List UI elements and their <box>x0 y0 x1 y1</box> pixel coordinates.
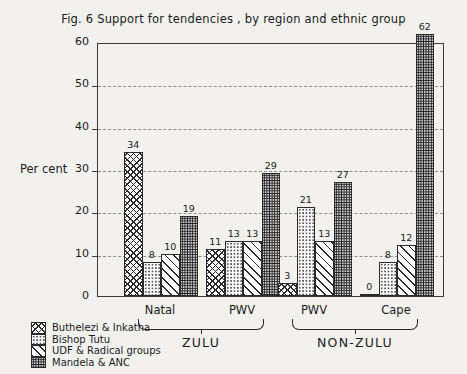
bracket-stem <box>355 329 356 334</box>
bar <box>225 241 244 296</box>
bar <box>297 207 316 296</box>
bar-value-label: 29 <box>265 160 277 171</box>
bar-value-label: 0 <box>366 281 372 292</box>
bar <box>206 249 225 296</box>
bar-value-label: 62 <box>419 21 431 32</box>
y-tick-label: 20 <box>49 204 89 217</box>
y-tick-label: 60 <box>49 35 89 48</box>
bracket-stem <box>201 329 202 334</box>
bar-value-label: 8 <box>385 249 391 260</box>
x-group-label: PWV <box>229 303 255 317</box>
bar-value-label: 12 <box>400 232 412 243</box>
legend-item: Buthelezi & Inkatha <box>31 322 161 334</box>
legend-label: Bishop Tutu <box>52 334 110 345</box>
bar-value-label: 11 <box>209 236 221 247</box>
bar-value-label: 34 <box>127 139 139 150</box>
plot-area: 3481019111313293211327081262 <box>97 43 444 297</box>
bar <box>278 283 297 296</box>
bar-value-label: 13 <box>246 228 258 239</box>
legend-label: Mandela & ANC <box>52 357 130 368</box>
bar <box>315 241 334 296</box>
legend-swatch <box>31 345 46 357</box>
x-group-label: PWV <box>301 303 327 317</box>
bar-value-label: 13 <box>318 228 330 239</box>
bar <box>379 262 398 296</box>
bar <box>334 182 353 296</box>
x-group-label: Natal <box>145 303 175 317</box>
bar-value-label: 10 <box>164 241 176 252</box>
legend-item: Mandela & ANC <box>31 357 161 369</box>
bar <box>416 34 435 296</box>
y-tick-label: 50 <box>49 77 89 90</box>
y-tick-label: 40 <box>49 120 89 133</box>
bars-layer: 3481019111313293211327081262 <box>98 44 443 296</box>
chart-figure: Fig. 6 Support for tendencies , by regio… <box>0 0 467 374</box>
legend-swatch <box>31 357 46 369</box>
bar <box>161 254 180 296</box>
bar <box>124 152 143 296</box>
y-tick-label: 0 <box>49 289 89 302</box>
bar-value-label: 8 <box>149 249 155 260</box>
chart-title: Fig. 6 Support for tendencies , by regio… <box>0 12 467 26</box>
bar-value-label: 3 <box>284 270 290 281</box>
x-group-label: Cape <box>381 303 410 317</box>
bar-value-label: 27 <box>337 169 349 180</box>
bar-value-label: 21 <box>300 194 312 205</box>
bar <box>143 262 162 296</box>
legend: Buthelezi & InkathaBishop TutuUDF & Radi… <box>31 322 161 368</box>
y-tick-label: 30 <box>49 162 89 175</box>
bar-value-label: 13 <box>228 228 240 239</box>
y-tick-label: 10 <box>49 247 89 260</box>
legend-item: Bishop Tutu <box>31 334 161 346</box>
bar <box>262 173 281 296</box>
group-bracket-label: ZULU <box>182 335 220 350</box>
bar-value-label: 19 <box>183 203 195 214</box>
bar <box>243 241 262 296</box>
legend-swatch <box>31 334 46 346</box>
bar <box>180 216 199 296</box>
bar <box>360 294 379 297</box>
legend-label: Buthelezi & Inkatha <box>52 322 150 333</box>
legend-item: UDF & Radical groups <box>31 345 161 357</box>
legend-label: UDF & Radical groups <box>52 345 161 356</box>
group-bracket-label: NON-ZULU <box>317 335 393 350</box>
bar <box>397 245 416 296</box>
legend-swatch <box>31 322 46 334</box>
